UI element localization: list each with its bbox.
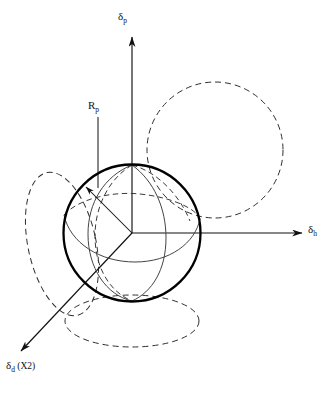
radius-subscript: p [95, 105, 99, 114]
axis-label-delta-h: δh [308, 224, 317, 238]
projection-outlines [14, 82, 283, 347]
axis-label-delta-p: δp [118, 11, 127, 25]
axis-subscript-delta-h: h [313, 229, 317, 238]
axis-lines [21, 37, 302, 351]
projection-ellipse-dp-dh-plane [147, 82, 283, 218]
figure-container: δp δh δd (X2) Rp [0, 0, 332, 395]
axis-line-delta-d [21, 233, 132, 351]
solubility-sphere-diagram [0, 0, 332, 395]
hidden-arc-meridian-dh [132, 165, 190, 221]
axis-subscript-delta-p: p [123, 16, 127, 25]
projection-ellipse-dd-dh-plane [65, 295, 199, 347]
radius-label-rp: Rp [88, 100, 99, 114]
axis-label-delta-d: δd (X2) [6, 360, 35, 374]
axis-note-delta-d: (X2) [15, 361, 35, 371]
hidden-arc-meridian-dd [95, 165, 132, 301]
